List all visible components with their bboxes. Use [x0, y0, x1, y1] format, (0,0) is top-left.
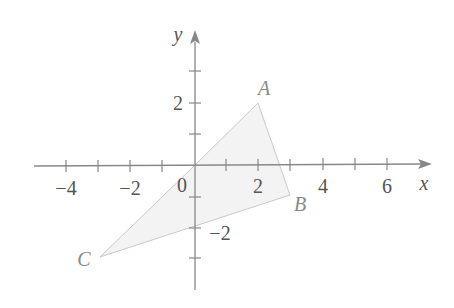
- coordinate-plane-figure: −4 −2 0 2 4 6 2 −2 x y A B C: [0, 0, 454, 308]
- x-tick-label-neg2: −2: [119, 177, 140, 199]
- y-tick-label-neg2: −2: [209, 222, 230, 244]
- point-label-c: C: [77, 248, 91, 270]
- x-tick-label-neg4: −4: [55, 177, 76, 199]
- y-axis: [189, 30, 201, 290]
- x-tick-label-2: 2: [253, 175, 263, 197]
- point-label-b: B: [294, 193, 306, 215]
- x-tick-label-4: 4: [318, 175, 328, 197]
- x-tick-label-6: 6: [382, 175, 392, 197]
- y-tick-label-2: 2: [173, 92, 183, 114]
- x-axis-label: x: [419, 172, 429, 194]
- origin-label: 0: [177, 174, 187, 196]
- point-label-a: A: [256, 77, 271, 99]
- y-axis-label: y: [172, 23, 183, 46]
- plot-svg: −4 −2 0 2 4 6 2 −2 x y A B C: [0, 0, 454, 308]
- y-axis-arrow-icon: [190, 30, 200, 44]
